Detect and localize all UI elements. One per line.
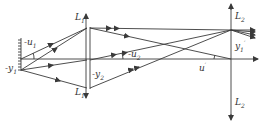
object-hatch [18,38,21,71]
label-y1: -y1 [5,64,17,75]
label-y1-prime: y1′ [235,40,245,53]
label-u2: -u2 [128,50,141,61]
label-l2-top: L2 [235,12,245,23]
angle-arc-u1 [33,53,34,59]
ray [21,60,87,70]
optical-diagram [0,0,272,124]
ray [90,28,231,59]
label-l2-bottom: L2 [235,98,245,109]
label-l1-top: L1 [75,13,85,24]
ray [21,28,87,70]
angle-arc-u2 [122,53,123,59]
label-u1: -u1 [24,38,37,49]
ray [90,30,231,60]
label-u-prime: u′ [199,62,206,73]
lens-l1 [86,14,90,98]
ray [90,28,231,30]
label-l1-bottom: L1 [75,88,85,99]
label-y2: -y2 [92,70,104,81]
ray [21,70,87,88]
